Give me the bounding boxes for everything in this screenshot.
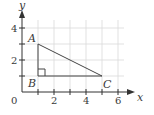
x-tick-label-4: 4 [83, 95, 89, 106]
point-label-b: B [27, 77, 36, 90]
x-axis-label: x [137, 91, 144, 104]
origin-label: 0 [11, 95, 17, 106]
point-label-c: C [103, 78, 112, 91]
point-label-a: A [27, 32, 36, 45]
y-tick-label-2: 2 [11, 55, 17, 66]
x-axis-arrow-icon [127, 89, 135, 95]
y-tick-label-4: 4 [11, 23, 17, 34]
y-axis-label: y [18, 0, 26, 12]
x-tick-label-6: 6 [115, 95, 121, 106]
x-tick-label-2: 2 [51, 95, 57, 106]
right-angle-marker [38, 69, 45, 76]
coordinate-plane: y x 0 2 4 6 2 4 A B C [0, 0, 154, 115]
